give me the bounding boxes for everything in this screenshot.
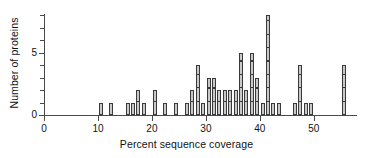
x-tick-label: 10 bbox=[92, 124, 103, 134]
y-tick-minor bbox=[40, 15, 45, 16]
histogram-bar bbox=[298, 65, 302, 115]
histogram-bar bbox=[304, 103, 308, 116]
histogram-bar bbox=[250, 53, 254, 116]
histogram-bar bbox=[342, 65, 346, 115]
x-tick-major bbox=[44, 115, 45, 121]
x-axis-title: Percent sequence coverage bbox=[0, 138, 373, 150]
histogram-bar bbox=[261, 103, 265, 116]
histogram-bar bbox=[201, 103, 205, 116]
histogram-bar bbox=[163, 103, 167, 116]
histogram-bar bbox=[196, 65, 200, 115]
histogram-bar bbox=[293, 103, 297, 116]
y-axis-title: Number of proteins bbox=[8, 7, 22, 119]
histogram-bar bbox=[244, 90, 248, 115]
histogram-bar bbox=[277, 103, 281, 116]
x-tick-major bbox=[260, 115, 261, 121]
histogram-figure: Number of proteins 05 01020304050 Percen… bbox=[0, 0, 373, 158]
y-tick-minor bbox=[40, 78, 45, 79]
x-tick-label: 50 bbox=[308, 124, 319, 134]
histogram-bar bbox=[234, 90, 238, 115]
x-tick-label: 0 bbox=[41, 124, 47, 134]
x-axis-line bbox=[44, 115, 357, 116]
x-tick-label: 20 bbox=[146, 124, 157, 134]
histogram-bar bbox=[136, 90, 140, 115]
x-tick-label: 30 bbox=[200, 124, 211, 134]
histogram-bar bbox=[217, 90, 221, 115]
histogram-bar bbox=[212, 78, 216, 116]
histogram-bar bbox=[142, 103, 146, 116]
y-tick-minor bbox=[40, 103, 45, 104]
x-tick-major bbox=[314, 115, 315, 121]
histogram-bar bbox=[228, 90, 232, 115]
x-tick-major bbox=[152, 115, 153, 121]
histogram-bar bbox=[153, 90, 157, 115]
histogram-bar bbox=[255, 78, 259, 116]
histogram-bar bbox=[271, 103, 275, 116]
x-tick-label: 40 bbox=[254, 124, 265, 134]
histogram-bar bbox=[174, 103, 178, 116]
histogram-bar bbox=[309, 103, 313, 116]
histogram-bar bbox=[185, 103, 189, 116]
y-tick-minor bbox=[40, 28, 45, 29]
y-axis-line bbox=[44, 14, 45, 116]
y-tick-label: 5 bbox=[31, 48, 37, 58]
y-tick-major bbox=[39, 53, 45, 54]
y-tick-label: 0 bbox=[31, 110, 37, 120]
y-tick-minor bbox=[40, 90, 45, 91]
histogram-bar bbox=[131, 103, 135, 116]
histogram-bar bbox=[266, 15, 270, 115]
histogram-bar bbox=[239, 53, 243, 116]
histogram-bar bbox=[223, 90, 227, 115]
histogram-bar bbox=[207, 78, 211, 116]
x-tick-major bbox=[98, 115, 99, 121]
histogram-bar bbox=[126, 103, 130, 116]
y-tick-minor bbox=[40, 40, 45, 41]
histogram-bar bbox=[190, 90, 194, 115]
y-tick-minor bbox=[40, 65, 45, 66]
plot-area: 05 01020304050 bbox=[44, 14, 357, 116]
histogram-bar bbox=[109, 103, 113, 116]
histogram-bar bbox=[99, 103, 103, 116]
x-tick-major bbox=[206, 115, 207, 121]
